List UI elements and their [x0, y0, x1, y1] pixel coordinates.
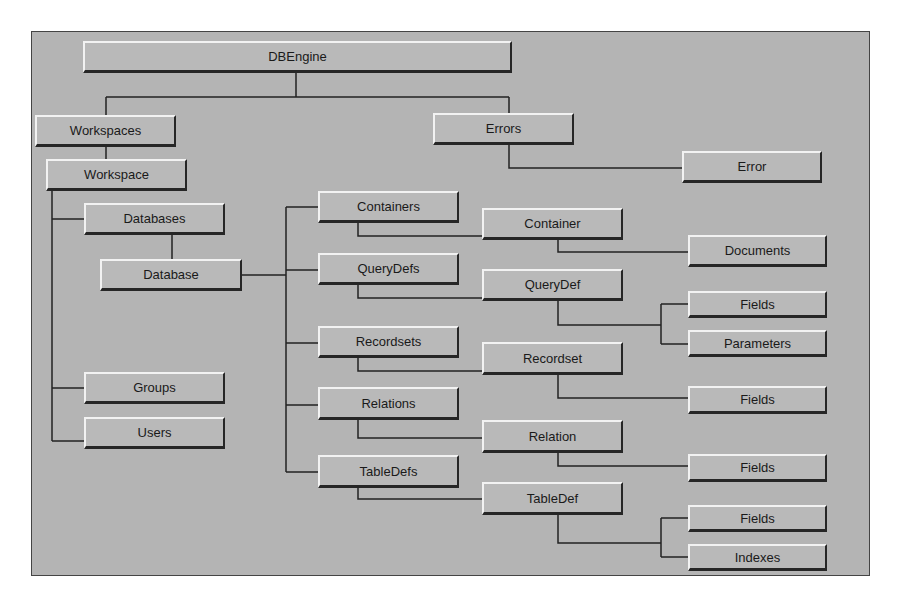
node-recordsets: Recordsets — [318, 326, 459, 358]
node-databases: Databases — [84, 203, 225, 235]
node-label: Database — [143, 267, 199, 282]
node-label: Error — [738, 159, 767, 174]
node-indexes: Indexes — [688, 544, 827, 571]
node-label: Users — [138, 425, 172, 440]
connector-line — [106, 73, 509, 115]
node-error: Error — [682, 151, 822, 183]
node-label: Fields — [740, 392, 775, 407]
node-label: Indexes — [735, 550, 781, 565]
connector-line — [52, 191, 84, 441]
node-label: Fields — [740, 460, 775, 475]
node-label: Documents — [725, 243, 791, 258]
node-label: Workspace — [84, 167, 149, 182]
connector-line — [558, 301, 688, 344]
node-workspace: Workspace — [46, 159, 187, 191]
node-errors: Errors — [433, 113, 574, 145]
node-label: Recordset — [523, 351, 582, 366]
node-querydefs: QueryDefs — [318, 253, 459, 285]
node-dbengine: DBEngine — [83, 41, 512, 73]
node-containers: Containers — [318, 191, 459, 223]
node-tabledef: TableDef — [482, 482, 623, 515]
connector-line — [509, 145, 682, 168]
node-label: DBEngine — [268, 49, 327, 64]
connector-line — [558, 515, 688, 557]
node-td-fields: Fields — [688, 505, 827, 532]
connector-line — [358, 488, 482, 499]
node-label: Groups — [133, 380, 176, 395]
node-label: Fields — [740, 297, 775, 312]
node-container: Container — [482, 208, 623, 240]
node-tabledefs: TableDefs — [318, 455, 459, 488]
node-label: Errors — [486, 121, 521, 136]
node-rs-fields: Fields — [688, 386, 827, 414]
connector-line — [558, 453, 688, 466]
node-label: Databases — [123, 211, 185, 226]
connector-line — [558, 375, 688, 398]
node-label: Containers — [357, 199, 420, 214]
connector-line — [358, 420, 482, 438]
node-database: Database — [100, 259, 242, 291]
node-querydef: QueryDef — [482, 269, 623, 301]
node-documents: Documents — [688, 235, 827, 267]
node-relations: Relations — [318, 387, 459, 420]
node-label: Relations — [361, 396, 415, 411]
node-label: Container — [524, 216, 580, 231]
connector-line — [558, 240, 688, 252]
node-label: TableDefs — [360, 464, 418, 479]
connector-line — [242, 207, 318, 472]
node-rel-fields: Fields — [688, 454, 827, 482]
node-label: Parameters — [724, 336, 791, 351]
node-groups: Groups — [84, 372, 225, 404]
node-label: Workspaces — [70, 123, 141, 138]
node-label: Relation — [529, 429, 577, 444]
node-label: TableDef — [527, 491, 578, 506]
node-label: Fields — [740, 511, 775, 526]
node-recordset: Recordset — [482, 342, 623, 375]
node-label: Recordsets — [356, 334, 422, 349]
node-users: Users — [84, 417, 225, 449]
connector-line — [358, 358, 482, 371]
connector-line — [358, 223, 482, 236]
node-label: QueryDefs — [357, 261, 419, 276]
node-label: QueryDef — [525, 277, 581, 292]
node-parameters: Parameters — [688, 330, 827, 357]
node-relation: Relation — [482, 420, 623, 453]
connector-line — [358, 285, 482, 298]
node-qd-fields: Fields — [688, 291, 827, 318]
node-workspaces: Workspaces — [35, 115, 176, 147]
